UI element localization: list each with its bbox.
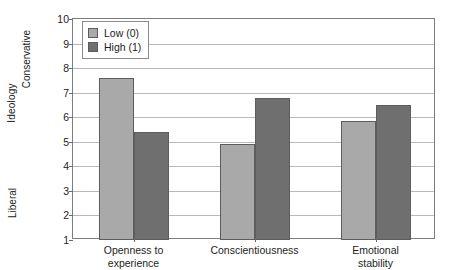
gridline <box>73 93 434 94</box>
x-axis-tick-mark <box>255 238 256 242</box>
y-axis-tick-mark <box>69 68 73 69</box>
bar <box>134 132 169 240</box>
x-axis-tick-label-line: Emotional <box>311 244 441 257</box>
y-axis-tick-label: 8 <box>47 61 69 75</box>
gridline <box>73 166 434 167</box>
legend-item-label: Low (0) <box>104 27 139 39</box>
y-axis-tick-label: 9 <box>47 37 69 51</box>
x-axis-tick-label: Conscientiousness <box>190 244 320 257</box>
gridline <box>73 191 434 192</box>
y-axis-tick-label: 2 <box>47 208 69 222</box>
y-axis-tick-mark <box>69 93 73 94</box>
legend-swatch-icon <box>88 28 98 38</box>
bar <box>255 98 290 240</box>
gridline <box>73 142 434 143</box>
legend-item: High (1) <box>88 40 141 54</box>
bar <box>341 121 376 240</box>
x-axis-tick-label-line: Openness to <box>69 244 199 257</box>
y-axis-tick-mark <box>69 44 73 45</box>
legend-item: Low (0) <box>88 26 141 40</box>
x-axis-tick-label-line: Conscientiousness <box>190 244 320 257</box>
bar <box>376 105 411 240</box>
y-axis-title: Ideology <box>6 68 20 138</box>
y-axis-tick-mark <box>69 142 73 143</box>
y-axis-tick-mark <box>69 166 73 167</box>
gridline <box>73 117 434 118</box>
y-axis-tick-label: 4 <box>47 159 69 173</box>
y-axis-tick-label: 6 <box>47 110 69 124</box>
x-axis-tick-label: Openness toexperience <box>69 244 199 270</box>
legend-swatch-icon <box>88 42 98 52</box>
y-axis-tick-mark <box>69 191 73 192</box>
y-axis-tick-mark <box>69 117 73 118</box>
y-axis-tick-label: 3 <box>47 184 69 198</box>
y-axis-tick-label: 5 <box>47 135 69 149</box>
x-axis-tick-label-line: stability <box>311 257 441 270</box>
y-axis-tick-label: 7 <box>47 86 69 100</box>
y-axis-tick-label: 10 <box>47 12 69 26</box>
y-axis-tick-mark <box>69 19 73 20</box>
x-axis-tick-mark <box>134 238 135 242</box>
x-axis-tick-label: Emotionalstability <box>311 244 441 270</box>
gridline <box>73 215 434 216</box>
y-axis-pole-label-bottom: Liberal <box>7 173 21 233</box>
y-axis-tick-mark <box>69 215 73 216</box>
y-axis-tick-label: 1 <box>47 233 69 247</box>
y-axis-tick-mark <box>69 240 73 241</box>
legend-item-label: High (1) <box>104 41 141 53</box>
legend: Low (0) High (1) <box>82 21 149 59</box>
bar <box>220 144 255 240</box>
y-axis-pole-label-top: Conservative <box>21 13 35 105</box>
gridline <box>73 68 434 69</box>
x-axis-tick-label-line: experience <box>69 257 199 270</box>
x-axis-tick-mark <box>376 238 377 242</box>
